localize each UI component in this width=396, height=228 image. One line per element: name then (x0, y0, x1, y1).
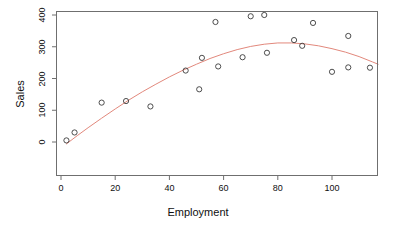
x-tick-label: 20 (110, 183, 120, 193)
x-tick-label: 100 (324, 183, 339, 193)
x-tick-label: 80 (273, 183, 283, 193)
y-tick-label: 300 (37, 39, 47, 54)
y-tick-label: 400 (37, 7, 47, 22)
y-axis-title: Sales (14, 80, 26, 108)
y-tick-label: 100 (37, 103, 47, 118)
y-tick-label: 0 (37, 139, 47, 144)
chart-figure: 020406080100 0100200300400 Employment Sa… (0, 0, 396, 228)
x-axis-title: Employment (167, 206, 228, 218)
y-tick-label: 200 (37, 71, 47, 86)
plot-panel (56, 11, 378, 176)
x-tick-label: 0 (58, 183, 63, 193)
x-tick-label: 40 (164, 183, 174, 193)
x-tick-label: 60 (219, 183, 229, 193)
